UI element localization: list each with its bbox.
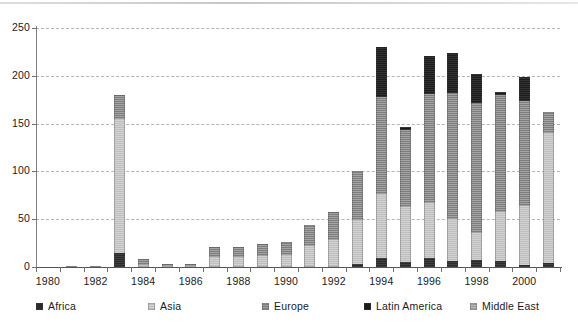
x-tick-mark-15 xyxy=(393,267,394,272)
bar-outline xyxy=(281,242,292,267)
bar-1982[interactable] xyxy=(90,266,101,267)
stacked-bar-chart: 050100150200250 198019821984198619881990… xyxy=(0,0,578,329)
x-tick-mark-20 xyxy=(512,267,513,272)
x-tick-mark-22 xyxy=(560,267,561,272)
bar-outline xyxy=(447,53,458,267)
plot-area xyxy=(36,28,560,267)
x-tick-mark-13 xyxy=(346,267,347,272)
bar-outline xyxy=(66,266,77,267)
legend-label-europe: Europe xyxy=(274,300,309,312)
bar-1981[interactable] xyxy=(66,266,77,267)
x-tick-mark-2 xyxy=(84,267,85,272)
x-tick-label-1988: 1988 xyxy=(226,275,250,287)
bar-outline xyxy=(185,264,196,267)
x-tick-mark-14 xyxy=(369,267,370,272)
legend-item-europe[interactable]: Europe xyxy=(262,300,309,312)
x-tick-mark-4 xyxy=(131,267,132,272)
legend-label-asia: Asia xyxy=(160,300,181,312)
bar-outline xyxy=(328,212,339,267)
x-tick-mark-9 xyxy=(250,267,251,272)
y-tick-label-100: 100 xyxy=(2,164,30,176)
bar-outline xyxy=(114,95,125,267)
x-tick-mark-17 xyxy=(441,267,442,272)
x-tick-mark-7 xyxy=(203,267,204,272)
y-tick-mark-250 xyxy=(32,28,37,29)
legend-label-mideast: Middle East xyxy=(482,300,539,312)
bar-1992[interactable] xyxy=(328,212,339,267)
x-tick-mark-5 xyxy=(155,267,156,272)
bar-outline xyxy=(162,264,173,267)
y-tick-mark-200 xyxy=(32,76,37,77)
x-tick-mark-16 xyxy=(417,267,418,272)
bar-2000[interactable] xyxy=(519,77,530,267)
bar-1996[interactable] xyxy=(424,56,435,267)
x-tick-mark-8 xyxy=(227,267,228,272)
bar-1993[interactable] xyxy=(352,171,363,267)
bar-outline xyxy=(209,247,220,267)
legend-swatch-africa-icon xyxy=(36,303,43,310)
bar-outline xyxy=(233,247,244,267)
x-tick-label-1994: 1994 xyxy=(369,275,393,287)
bar-outline xyxy=(519,77,530,267)
bar-outline xyxy=(495,92,506,267)
x-tick-mark-10 xyxy=(274,267,275,272)
bar-1989[interactable] xyxy=(257,244,268,267)
legend-label-latin: Latin America xyxy=(376,300,442,312)
bar-1995[interactable] xyxy=(400,127,411,267)
x-tick-label-1992: 1992 xyxy=(322,275,346,287)
bar-1986[interactable] xyxy=(185,264,196,267)
x-tick-mark-19 xyxy=(489,267,490,272)
bar-1988[interactable] xyxy=(233,247,244,267)
bar-1998[interactable] xyxy=(471,74,482,267)
x-tick-label-1984: 1984 xyxy=(131,275,155,287)
bar-1987[interactable] xyxy=(209,247,220,267)
legend-label-africa: Africa xyxy=(48,300,76,312)
legend-item-latin[interactable]: Latin America xyxy=(364,300,442,312)
bar-1983[interactable] xyxy=(114,95,125,267)
bar-outline xyxy=(471,74,482,267)
bar-1985[interactable] xyxy=(162,264,173,267)
bar-outline xyxy=(304,225,315,267)
x-tick-label-1986: 1986 xyxy=(179,275,203,287)
x-tick-mark-11 xyxy=(298,267,299,272)
y-tick-label-200: 200 xyxy=(2,69,30,81)
y-tick-label-150: 150 xyxy=(2,117,30,129)
bar-outline xyxy=(400,127,411,267)
y-tick-mark-150 xyxy=(32,124,37,125)
y-tick-label-0: 0 xyxy=(2,260,30,272)
x-tick-mark-0 xyxy=(36,267,37,272)
legend-item-africa[interactable]: Africa xyxy=(36,300,76,312)
bar-1990[interactable] xyxy=(281,242,292,267)
legend-swatch-europe-icon xyxy=(262,303,269,310)
x-tick-label-1998: 1998 xyxy=(465,275,489,287)
x-tick-mark-3 xyxy=(107,267,108,272)
bar-1991[interactable] xyxy=(304,225,315,267)
bar-1994[interactable] xyxy=(376,47,387,267)
x-tick-label-1996: 1996 xyxy=(417,275,441,287)
x-tick-mark-18 xyxy=(465,267,466,272)
y-tick-label-250: 250 xyxy=(2,21,30,33)
x-tick-label-1990: 1990 xyxy=(274,275,298,287)
bar-outline xyxy=(90,266,101,267)
x-tick-mark-21 xyxy=(536,267,537,272)
legend-item-mideast[interactable]: Middle East xyxy=(470,300,539,312)
y-tick-mark-100 xyxy=(32,171,37,172)
legend-swatch-asia-icon xyxy=(148,303,155,310)
bar-1999[interactable] xyxy=(495,92,506,267)
gridline-250 xyxy=(36,28,560,29)
x-tick-mark-12 xyxy=(322,267,323,272)
bar-outline xyxy=(424,56,435,267)
x-tick-mark-1 xyxy=(60,267,61,272)
bar-1997[interactable] xyxy=(447,53,458,267)
bar-outline xyxy=(138,259,149,267)
bar-2001[interactable] xyxy=(543,112,554,267)
bar-outline xyxy=(543,112,554,267)
bar-outline xyxy=(352,171,363,267)
legend-item-asia[interactable]: Asia xyxy=(148,300,181,312)
bar-outline xyxy=(257,244,268,267)
x-tick-label-2000: 2000 xyxy=(512,275,536,287)
x-tick-label-1982: 1982 xyxy=(83,275,107,287)
chart-legend: AfricaAsiaEuropeLatin AmericaMiddle East xyxy=(0,300,578,316)
legend-swatch-mideast-icon xyxy=(470,303,477,310)
bar-1984[interactable] xyxy=(138,259,149,267)
